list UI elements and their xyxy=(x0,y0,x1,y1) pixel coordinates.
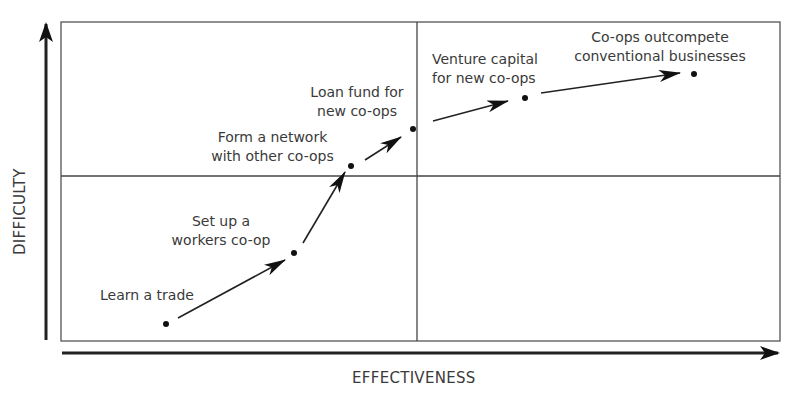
dot-loan-fund xyxy=(410,126,416,132)
label-loan-fund: Loan fund for new co-ops xyxy=(302,83,412,121)
step-arrows xyxy=(178,73,680,318)
label-line: with other co-ops xyxy=(200,147,345,166)
label-line: workers co-op xyxy=(166,231,276,250)
label-outcompete: Co-ops outcompete conventional businesse… xyxy=(562,28,758,66)
label-learn-trade: Learn a trade xyxy=(100,286,194,305)
label-line: Form a network xyxy=(200,128,345,147)
x-axis-label: EFFECTIVENESS xyxy=(352,369,476,387)
dot-venture-capital xyxy=(522,95,528,101)
dot-network xyxy=(348,163,354,169)
label-workers-coop: Set up a workers co-op xyxy=(166,212,276,250)
step-dots xyxy=(163,71,697,327)
label-line: Loan fund for xyxy=(302,83,412,102)
dot-learn-trade xyxy=(163,321,169,327)
y-axis-label: DIFFICULTY xyxy=(11,168,29,255)
label-network: Form a network with other co-ops xyxy=(200,128,345,166)
label-line: Learn a trade xyxy=(100,286,194,305)
dot-workers-coop xyxy=(291,250,297,256)
label-line: for new co-ops xyxy=(432,69,538,88)
label-line: conventional businesses xyxy=(562,47,758,66)
label-line: Co-ops outcompete xyxy=(562,28,758,47)
label-line: new co-ops xyxy=(302,102,412,121)
label-line: Set up a xyxy=(166,212,276,231)
label-line: Venture capital xyxy=(432,50,538,69)
dot-outcompete xyxy=(691,71,697,77)
label-venture-capital: Venture capital for new co-ops xyxy=(432,50,538,88)
